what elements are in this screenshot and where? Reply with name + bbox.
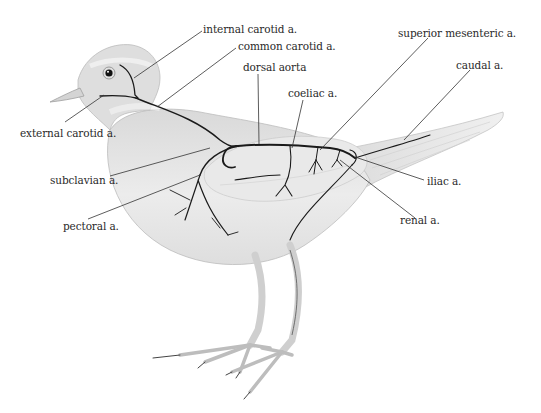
leader-common-carotid xyxy=(157,48,236,107)
label-external-carotid: external carotid a. xyxy=(20,128,116,139)
beak xyxy=(50,88,84,102)
bird-artery-diagram: internal carotid a. common carotid a. do… xyxy=(0,0,541,413)
leg-right xyxy=(282,245,299,352)
leg-left xyxy=(250,255,262,345)
label-iliac: iliac a. xyxy=(427,176,461,187)
label-coeliac: coeliac a. xyxy=(288,88,337,99)
label-caudal: caudal a. xyxy=(456,60,503,71)
label-common-carotid: common carotid a. xyxy=(238,41,336,52)
label-dorsal-aorta: dorsal aorta xyxy=(243,62,306,73)
feet xyxy=(180,345,292,392)
label-renal: renal a. xyxy=(400,215,440,226)
label-pectoral: pectoral a. xyxy=(63,221,119,232)
label-superior-mesenteric: superior mesenteric a. xyxy=(398,28,516,39)
label-subclavian: subclavian a. xyxy=(50,175,118,186)
label-internal-carotid: internal carotid a. xyxy=(203,24,297,35)
